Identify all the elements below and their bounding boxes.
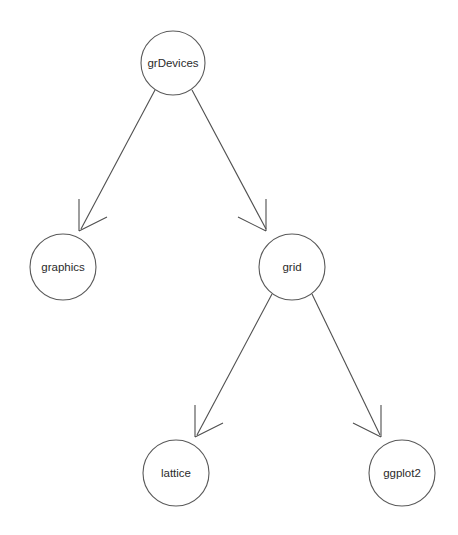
dependency-diagram: grDevices graphics grid lattice ggplot2	[0, 0, 458, 535]
node-ggplot2[interactable]: ggplot2	[369, 440, 435, 506]
node-grdevices[interactable]: grDevices	[141, 31, 205, 95]
node-circle[interactable]	[259, 234, 325, 300]
edge-grid-lattice	[195, 294, 272, 437]
node-graphics[interactable]: graphics	[30, 234, 96, 300]
arrowhead-lattice	[195, 405, 223, 437]
graph-canvas: grDevices graphics grid lattice ggplot2	[0, 0, 458, 535]
edge-grdevices-grid	[192, 90, 266, 231]
edge-grdevices-graphics	[79, 90, 155, 231]
node-circle[interactable]	[143, 440, 209, 506]
edge-line	[192, 90, 266, 229]
node-group: grDevices graphics grid lattice ggplot2	[30, 31, 435, 506]
node-lattice[interactable]: lattice	[143, 440, 209, 506]
arrowhead-graphics	[79, 199, 107, 231]
node-circle[interactable]	[369, 440, 435, 506]
node-grid[interactable]: grid	[259, 234, 325, 300]
edge-grid-ggplot2	[312, 294, 381, 437]
edge-line	[81, 90, 155, 229]
node-circle[interactable]	[30, 234, 96, 300]
edge-line	[197, 294, 272, 435]
arrowhead-ggplot2	[353, 405, 381, 437]
node-circle[interactable]	[141, 31, 205, 95]
edge-group	[79, 90, 381, 437]
edge-line	[312, 294, 380, 435]
